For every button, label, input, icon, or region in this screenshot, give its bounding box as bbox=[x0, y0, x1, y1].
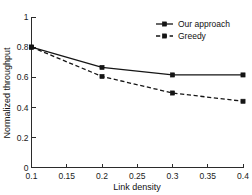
data-point-marker bbox=[100, 65, 104, 69]
x-tick-label: 0.2 bbox=[96, 171, 108, 181]
legend-label-0: Our approach bbox=[178, 19, 230, 29]
y-tick-label: 0.4 bbox=[17, 103, 29, 113]
y-axis-ticks: 00.20.40.60.81 bbox=[17, 12, 36, 173]
x-tick-label: 0.15 bbox=[58, 171, 75, 181]
data-point-marker bbox=[170, 73, 174, 77]
data-series-group bbox=[29, 45, 245, 103]
axes bbox=[32, 17, 244, 168]
x-tick-label: 0.25 bbox=[129, 171, 146, 181]
y-tick-label: 0 bbox=[24, 163, 29, 173]
legend-label-1: Greedy bbox=[178, 31, 207, 41]
data-point-marker bbox=[170, 91, 174, 95]
y-axis-title: Normalized throughput bbox=[2, 47, 12, 139]
x-tick-label: 0.3 bbox=[167, 171, 179, 181]
data-point-marker bbox=[100, 74, 104, 78]
legend: Our approachGreedy bbox=[156, 19, 230, 41]
chart-container: 0.10.150.20.250.30.350.4 00.20.40.60.81 … bbox=[0, 0, 252, 195]
series-line-0 bbox=[32, 47, 244, 75]
x-axis-ticks: 0.10.150.20.250.30.350.4 bbox=[26, 164, 250, 181]
x-tick-label: 0.35 bbox=[199, 171, 216, 181]
y-tick-label: 0.8 bbox=[17, 42, 29, 52]
x-axis-title: Link density bbox=[113, 182, 161, 192]
legend-marker-1 bbox=[162, 34, 166, 38]
data-point-marker bbox=[241, 73, 245, 77]
y-tick-label: 1 bbox=[24, 12, 29, 22]
line-chart: 0.10.150.20.250.30.350.4 00.20.40.60.81 … bbox=[0, 0, 252, 195]
y-tick-label: 0.6 bbox=[17, 72, 29, 82]
data-point-marker bbox=[29, 45, 33, 49]
data-point-marker bbox=[241, 99, 245, 103]
legend-marker-0 bbox=[162, 22, 166, 26]
series-line-1 bbox=[32, 47, 244, 101]
y-tick-label: 0.2 bbox=[17, 133, 29, 143]
x-tick-label: 0.4 bbox=[237, 171, 249, 181]
